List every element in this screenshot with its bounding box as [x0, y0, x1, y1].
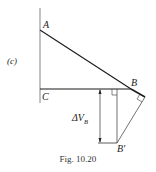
- panel-label: (c): [7, 56, 17, 66]
- dimension-label-subscript: B: [84, 118, 88, 125]
- point-label-b: B: [131, 77, 137, 88]
- figure-caption: Fig. 10.20: [60, 154, 97, 164]
- displacement-line-bprime: [117, 97, 145, 143]
- point-label-c: C: [42, 91, 49, 102]
- arrow-up-icon: [99, 89, 102, 94]
- point-label-b-prime: B': [117, 143, 126, 154]
- point-label-a: A: [42, 19, 50, 30]
- figure-diagram: A B C B' (c) ΔVB Fig. 10.20: [0, 0, 156, 172]
- arrow-down-icon: [99, 138, 102, 143]
- rotated-segment-b: [131, 89, 145, 97]
- right-angle-marker-c: [112, 89, 117, 95]
- dimension-label-dvb: ΔVB: [71, 112, 88, 125]
- member-ab: [40, 30, 131, 89]
